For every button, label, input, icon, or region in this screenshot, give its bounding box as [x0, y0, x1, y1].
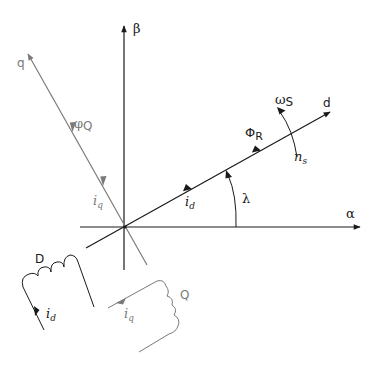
q-axis-label: q	[17, 56, 25, 70]
n-s-label: ns	[294, 149, 307, 166]
lambda-label: λ	[242, 191, 250, 206]
current-q-axis-label: iq	[93, 193, 103, 210]
flux-q-label: φQ	[74, 116, 93, 133]
d-winding-label: D	[35, 252, 44, 266]
q-winding-label: Q	[180, 288, 189, 302]
d-winding-current-label: id	[46, 306, 56, 323]
beta-axis-label: β	[133, 21, 141, 36]
current-d-axis-label: id	[185, 194, 195, 211]
d-axis-label: d	[323, 96, 331, 110]
flux-rotor-label: ΦR	[245, 125, 263, 143]
q-axis	[28, 54, 147, 265]
dq-reference-frame-diagram: α β q φQ iq d ΦR id ωS ns λ	[0, 0, 379, 372]
q-winding-current-label: iq	[124, 306, 134, 323]
lambda-angle-arc	[226, 170, 237, 227]
origin-point	[123, 225, 126, 228]
q-winding-coil	[108, 281, 179, 352]
omega-s-label: ωS	[275, 92, 293, 109]
d-winding-coil	[22, 255, 94, 330]
q-winding-current-arrow-icon	[116, 298, 126, 305]
alpha-axis-label: α	[346, 206, 355, 221]
lambda-arrow-icon	[226, 170, 233, 179]
